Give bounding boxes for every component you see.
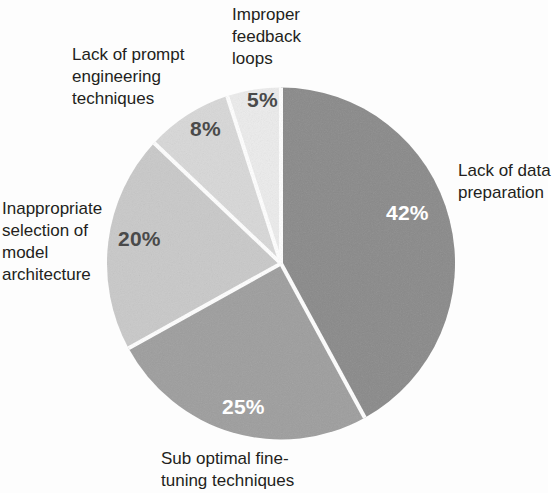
slice-value-prompt-eng: 8% (190, 118, 221, 139)
category-label-fine-tuning: Sub optimal fine- tuning techniques (161, 448, 381, 492)
slice-value-fine-tuning: 25% (222, 396, 265, 417)
pie-grain-texture (106, 87, 456, 440)
slice-value-model-arch: 20% (118, 228, 161, 249)
category-label-model-arch: Inappropriate selection of model archite… (2, 198, 117, 286)
slice-value-feedback: 5% (247, 89, 278, 110)
category-label-data-prep: Lack of data preparation (458, 160, 556, 204)
category-label-prompt-eng: Lack of prompt engineering techniques (72, 44, 222, 110)
pie-chart (106, 87, 456, 440)
pie-chart-svg (106, 87, 456, 440)
slice-value-data-prep: 42% (386, 202, 429, 223)
category-label-feedback: Improper feedback loops (232, 4, 352, 70)
